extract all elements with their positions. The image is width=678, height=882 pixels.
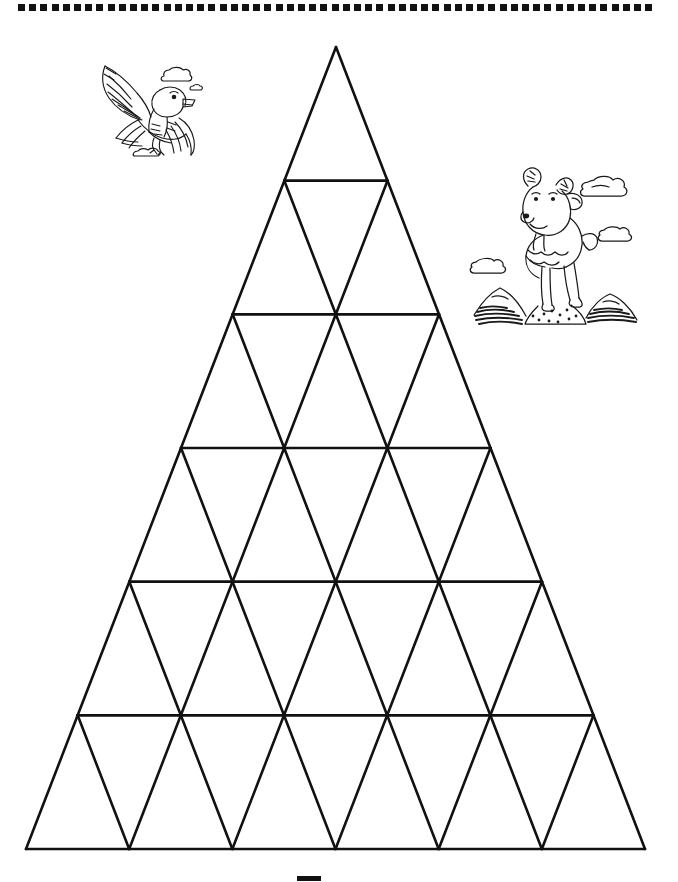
grid-line-diagonal-right — [387, 715, 439, 849]
grid-line-diagonal-left — [284, 582, 336, 716]
worksheet-page: Triangle Grid Mountain Worksheet — [0, 0, 678, 882]
grid-line-diagonal-left — [129, 448, 181, 582]
grid-line-diagonal-left — [336, 715, 388, 849]
grid-line-diagonal-right — [284, 448, 336, 582]
grid-line-diagonal-right — [594, 715, 646, 849]
grid-line-diagonal-left — [387, 314, 439, 448]
grid-line-diagonal-left — [439, 715, 491, 849]
grid-line-diagonal-left — [284, 314, 336, 448]
grid-line-diagonal-right — [490, 715, 542, 849]
grid-line-diagonal-right — [491, 448, 543, 582]
grid-line-diagonal-left — [387, 582, 439, 716]
grid-line-diagonal-left — [284, 47, 336, 181]
grid-line-diagonal-right — [439, 314, 491, 448]
grid-line-diagonal-right — [284, 181, 336, 315]
grid-line-diagonal-left — [233, 181, 285, 315]
grid-line-diagonal-left — [26, 715, 78, 849]
grid-line-diagonal-right — [336, 314, 388, 448]
mountain-goat-icon — [464, 158, 642, 326]
grid-line-diagonal-left — [490, 582, 542, 716]
grid-line-diagonal-left — [78, 582, 130, 716]
grid-line-diagonal-left — [233, 448, 285, 582]
bottom-mark — [297, 876, 321, 881]
eagle-icon — [82, 52, 204, 158]
grid-line-diagonal-left — [181, 582, 233, 716]
grid-line-diagonal-right — [439, 582, 491, 716]
grid-line-diagonal-left — [336, 181, 388, 315]
grid-line-diagonal-left — [542, 715, 594, 849]
grid-line-diagonal-right — [387, 448, 439, 582]
grid-line-diagonal-right — [129, 582, 181, 716]
grid-line-diagonal-right — [284, 715, 336, 849]
grid-line-diagonal-left — [129, 715, 181, 849]
grid-line-diagonal-left — [232, 715, 284, 849]
eagle-clipart — [82, 52, 204, 158]
grid-line-diagonal-right — [542, 582, 594, 716]
grid-line-diagonal-left — [181, 314, 233, 448]
grid-line-diagonal-left — [336, 448, 388, 582]
grid-line-diagonal-right — [181, 448, 233, 582]
grid-line-diagonal-right — [233, 314, 285, 448]
grid-line-diagonal-right — [388, 181, 440, 315]
grid-line-diagonal-right — [181, 715, 233, 849]
grid-line-diagonal-right — [336, 582, 388, 716]
goat-clipart — [464, 158, 642, 326]
grid-line-diagonal-right — [336, 47, 388, 181]
grid-line-diagonal-right — [233, 582, 285, 716]
grid-line-diagonal-left — [439, 448, 491, 582]
grid-line-diagonal-right — [78, 715, 130, 849]
